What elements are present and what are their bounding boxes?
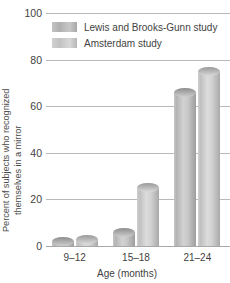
legend-label-lewis: Lewis and Brooks-Gunn study bbox=[84, 22, 217, 33]
bar-body bbox=[174, 92, 196, 246]
bar-chart: Percent of subjects who recognized thems… bbox=[0, 0, 230, 283]
bar-top-ellipse bbox=[174, 88, 196, 97]
bar-9-12-series-0 bbox=[52, 241, 74, 246]
bar-top-ellipse bbox=[76, 235, 98, 244]
bar-top-ellipse bbox=[52, 237, 74, 246]
legend-swatch-icon-lewis bbox=[52, 22, 77, 32]
bar-body bbox=[198, 71, 220, 246]
x-axis-tick-9-12: 9–12 bbox=[64, 252, 86, 263]
legend-label-amsterdam: Amsterdam study bbox=[84, 38, 162, 49]
bar-body bbox=[137, 188, 159, 246]
bar-21-24-series-1 bbox=[198, 71, 220, 246]
x-axis-title-text: Age (months) bbox=[73, 268, 157, 279]
legend: Lewis and Brooks-Gunn study Amsterdam st… bbox=[52, 20, 217, 52]
gridline-0: 0 bbox=[46, 246, 230, 247]
x-axis-tick-15-18: 15–18 bbox=[122, 252, 150, 263]
bar-9-12-series-1 bbox=[76, 239, 98, 246]
y-axis-tick-0: 0 bbox=[36, 240, 42, 252]
bar-21-24-series-0 bbox=[174, 92, 196, 246]
bar-top-ellipse bbox=[198, 67, 220, 76]
y-axis-tick-80: 80 bbox=[30, 54, 42, 66]
y-axis-title: Percent of subjects who recognized thems… bbox=[0, 0, 22, 250]
bar-top-ellipse bbox=[113, 228, 135, 237]
y-axis-tick-100: 100 bbox=[24, 7, 42, 19]
y-axis-title-line-1: Percent of subjects who recognized bbox=[1, 89, 11, 232]
legend-item-amsterdam: Amsterdam study bbox=[52, 36, 217, 50]
bar-15-18-series-1 bbox=[137, 188, 159, 246]
y-axis-tick-60: 60 bbox=[30, 100, 42, 112]
x-axis-tick-21-24: 21–24 bbox=[183, 252, 211, 263]
x-axis-title: Age (months) bbox=[0, 268, 230, 279]
bar-15-18-series-0 bbox=[113, 232, 135, 246]
legend-swatch-icon-amsterdam bbox=[52, 38, 77, 48]
y-axis-tick-40: 40 bbox=[30, 147, 42, 159]
legend-item-lewis: Lewis and Brooks-Gunn study bbox=[52, 20, 217, 34]
y-axis-title-line-2: themselves in a mirror bbox=[13, 126, 23, 215]
y-axis-tick-20: 20 bbox=[30, 193, 42, 205]
